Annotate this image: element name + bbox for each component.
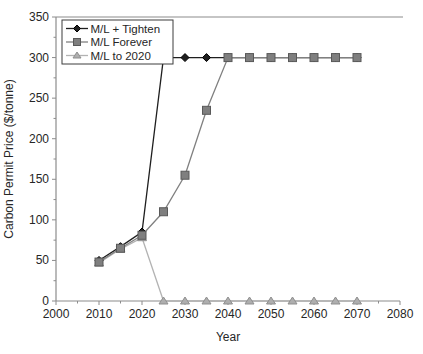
series-m-l-forever xyxy=(95,54,361,266)
x-tick-label: 2060 xyxy=(301,307,328,321)
series-m-l-tighten xyxy=(95,54,361,265)
y-tick-label: 150 xyxy=(29,172,49,186)
x-tick-label: 2040 xyxy=(215,307,242,321)
data-point-square xyxy=(332,54,340,62)
data-point-square xyxy=(310,54,318,62)
y-tick-label: 300 xyxy=(29,51,49,65)
series-line-m-l-to-2020 xyxy=(99,238,357,301)
x-axis-title: Year xyxy=(216,330,240,344)
y-tick-label: 350 xyxy=(29,10,49,24)
legend-label: M/L Forever xyxy=(91,36,153,48)
data-point-square xyxy=(117,244,125,252)
data-point-square xyxy=(160,208,168,216)
legend-label: M/L + Tighten xyxy=(91,23,161,35)
y-axis-title: Carbon Permit Price ($/tonne) xyxy=(2,79,16,238)
x-tick-label: 2050 xyxy=(258,307,285,321)
data-point-square xyxy=(138,231,146,239)
data-point-square xyxy=(74,39,81,46)
line-chart: 2000201020202030204020502060207020800501… xyxy=(0,0,423,354)
x-tick-label: 2070 xyxy=(344,307,371,321)
y-tick-label: 0 xyxy=(42,294,49,308)
legend: M/L + TightenM/L ForeverM/L to 2020 xyxy=(62,20,173,64)
y-tick-label: 50 xyxy=(36,253,50,267)
x-tick-label: 2020 xyxy=(129,307,156,321)
x-tick-label: 2010 xyxy=(86,307,113,321)
series-group xyxy=(95,54,362,304)
chart-figure: 2000201020202030204020502060207020800501… xyxy=(0,0,423,354)
data-point-diamond xyxy=(181,54,189,62)
y-tick-label: 200 xyxy=(29,132,49,146)
data-point-square xyxy=(95,258,103,266)
y-tick-label: 250 xyxy=(29,91,49,105)
data-point-square xyxy=(181,171,189,179)
series-line-m-l-tighten xyxy=(99,58,357,261)
series-m-l-to-2020 xyxy=(95,234,362,304)
x-tick-label: 2080 xyxy=(387,307,414,321)
data-point-square xyxy=(246,54,254,62)
data-point-square xyxy=(289,54,297,62)
y-tick-label: 100 xyxy=(29,213,49,227)
data-point-square xyxy=(267,54,275,62)
data-point-square xyxy=(353,54,361,62)
data-point-square xyxy=(224,54,232,62)
data-point-square xyxy=(203,106,211,114)
data-point-diamond xyxy=(203,54,211,62)
x-tick-label: 2000 xyxy=(43,307,70,321)
legend-label: M/L to 2020 xyxy=(91,50,151,62)
x-tick-label: 2030 xyxy=(172,307,199,321)
